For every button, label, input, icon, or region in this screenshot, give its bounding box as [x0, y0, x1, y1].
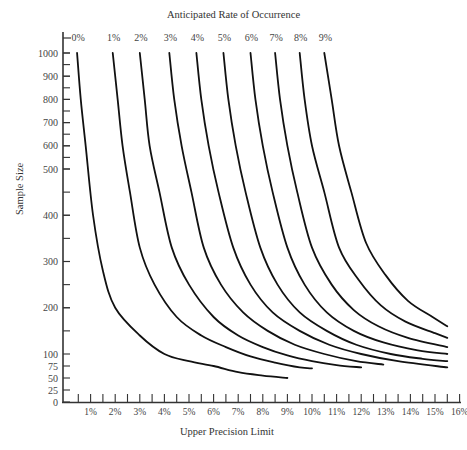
y-tick-label: 600 [43, 140, 58, 151]
curve-label: 6% [245, 32, 258, 43]
x-tick-label: 14% [402, 407, 420, 417]
curve-5pct [223, 53, 447, 361]
x-tick-label: 12% [352, 407, 370, 417]
y-tick-label: 50 [48, 373, 58, 384]
x-tick-label: 13% [377, 407, 395, 417]
y-tick-label: 800 [43, 94, 58, 105]
curve-labels: 0%1%2%3%4%5%6%7%8%9% [71, 32, 332, 43]
curve-4pct [196, 53, 447, 367]
y-tick-label: 75 [48, 361, 58, 372]
axes: 025507510020030040050060070080090010001%… [38, 32, 467, 417]
y-tick-label: 300 [43, 256, 58, 267]
y-tick-label: 900 [43, 71, 58, 82]
x-tick-label: 11% [328, 407, 345, 417]
curve-label: 7% [269, 32, 282, 43]
x-tick-label: 1% [84, 407, 97, 417]
y-tick-label: 1000 [38, 48, 58, 59]
chart-plot: 025507510020030040050060070080090010001%… [0, 0, 467, 450]
y-tick-label: 25 [48, 385, 58, 396]
x-tick-label: 3% [133, 407, 146, 417]
x-tick-label: 6% [207, 407, 220, 417]
curves [77, 53, 447, 378]
x-tick-label: 9% [281, 407, 294, 417]
y-tick-label: 500 [43, 164, 58, 175]
y-tick-label: 100 [43, 349, 58, 360]
x-tick-label: 15% [426, 407, 444, 417]
y-tick-label: 400 [43, 210, 58, 221]
x-tick-label: 2% [109, 407, 122, 417]
curve-8pct [300, 53, 448, 338]
x-tick-label: 4% [158, 407, 171, 417]
y-tick-label: 700 [43, 117, 58, 128]
curve-label: 4% [191, 32, 204, 43]
curve-label: 1% [107, 32, 120, 43]
x-tick-label: 8% [256, 407, 269, 417]
curve-7pct [275, 53, 447, 347]
curve-label: 3% [164, 32, 177, 43]
curve-9pct [324, 53, 447, 326]
y-tick-label: 200 [43, 302, 58, 313]
curve-label: 9% [319, 32, 332, 43]
curve-1pct [113, 53, 312, 368]
x-tick-label: 7% [232, 407, 245, 417]
x-tick-label: 16% [451, 407, 467, 417]
y-tick-label: 0 [53, 397, 58, 408]
x-tick-label: 10% [303, 407, 321, 417]
curve-label: 2% [134, 32, 147, 43]
curve-label: 5% [218, 32, 231, 43]
curve-label: 8% [294, 32, 307, 43]
curve-label: 0% [71, 32, 84, 43]
x-tick-label: 5% [183, 407, 196, 417]
